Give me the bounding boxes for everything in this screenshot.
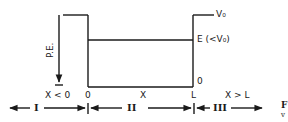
well-width-label: L — [191, 91, 196, 100]
origin-label: 0 — [85, 91, 91, 100]
barrier-height-label: V₀ — [216, 10, 226, 19]
region-1-condition-label: X < 0 — [45, 91, 70, 100]
potential-well-diagram — [0, 0, 288, 122]
cropped-caption-line2: v — [281, 112, 285, 119]
region-3-numeral: III — [213, 103, 227, 113]
well-bottom-right-label: 0 — [197, 77, 203, 86]
region-1-numeral: I — [34, 103, 39, 113]
region-2-numeral: II — [127, 103, 136, 113]
pe-axis-label: P.E. — [46, 43, 55, 58]
region-3-condition-label: X > L — [225, 91, 249, 100]
energy-level-label: E (<V₀) — [197, 35, 230, 44]
x-variable-label: X — [140, 91, 146, 100]
cropped-caption-line1: F — [281, 101, 287, 110]
